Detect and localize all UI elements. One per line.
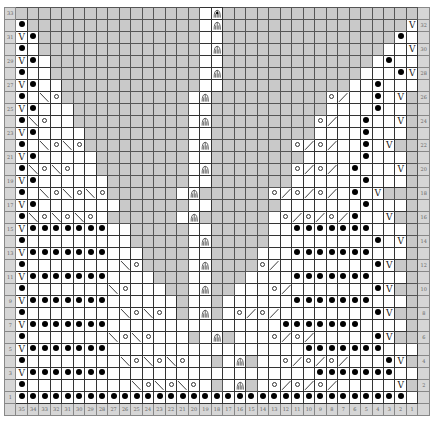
knit-cell <box>85 175 96 187</box>
purl-cell <box>361 247 372 259</box>
no-stitch-cell <box>395 331 406 343</box>
no-stitch-cell <box>338 55 349 67</box>
knit-cell <box>406 79 417 91</box>
left-decrease-cell <box>39 91 50 103</box>
no-stitch-cell <box>395 283 406 295</box>
purl-icon <box>19 393 25 399</box>
knit-cell <box>383 115 394 127</box>
purl-icon <box>202 393 208 399</box>
no-stitch-cell <box>326 79 337 91</box>
no-stitch-cell <box>50 31 61 43</box>
purl-icon <box>317 393 323 399</box>
purl-icon <box>260 393 266 399</box>
no-stitch-cell <box>39 43 50 55</box>
right-decrease-cell <box>303 331 314 343</box>
no-stitch-cell <box>326 67 337 79</box>
purl-icon <box>375 93 381 99</box>
slip-icon: V <box>409 20 416 30</box>
row-label-left: 17 <box>5 199 16 211</box>
no-stitch-cell <box>131 163 142 175</box>
no-stitch-cell <box>269 31 280 43</box>
purl-icon <box>340 345 346 351</box>
no-stitch-cell <box>223 163 234 175</box>
purl-icon <box>363 225 369 231</box>
knit-cell <box>269 271 280 283</box>
row-label-left <box>5 235 16 247</box>
knit-cell <box>73 283 84 295</box>
no-stitch-cell <box>131 235 142 247</box>
knit-cell <box>177 367 188 379</box>
knit-cell <box>200 379 211 391</box>
no-stitch-cell <box>131 115 142 127</box>
knit-cell <box>383 271 394 283</box>
knit-cell <box>372 67 383 79</box>
no-stitch-cell <box>292 19 303 31</box>
purl-cell <box>165 391 176 403</box>
slip-icon: V <box>397 92 404 102</box>
knit-cell <box>326 199 337 211</box>
purl-icon <box>53 273 59 279</box>
purl-cell <box>85 247 96 259</box>
knit-cell <box>62 127 73 139</box>
row-label-left <box>5 91 16 103</box>
no-stitch-cell <box>257 199 268 211</box>
knit-cell <box>315 199 326 211</box>
knit-cell <box>246 271 257 283</box>
row-label-right: 18 <box>418 187 430 199</box>
no-stitch-cell <box>211 151 222 163</box>
purl-icon <box>19 381 25 387</box>
knit-cell <box>372 55 383 67</box>
knit-cell <box>223 295 234 307</box>
knit-cell <box>188 271 199 283</box>
slip-icon: V <box>409 68 416 78</box>
knit-cell <box>338 151 349 163</box>
yo-cell <box>177 355 188 367</box>
purl-cell <box>16 259 27 271</box>
no-stitch-cell <box>96 8 107 20</box>
purl-icon <box>386 57 392 63</box>
purl-icon <box>30 321 36 327</box>
purl-icon <box>168 393 174 399</box>
purl-icon <box>375 345 381 351</box>
knit-cell <box>372 163 383 175</box>
purl-icon <box>363 129 369 135</box>
yo-cell <box>39 163 50 175</box>
row-label-left <box>5 379 16 391</box>
right-decrease-cell <box>269 307 280 319</box>
no-stitch-cell <box>177 55 188 67</box>
knit-cell <box>119 247 130 259</box>
no-stitch-cell <box>372 43 383 55</box>
purl-cell <box>27 79 38 91</box>
knit-cell <box>108 355 119 367</box>
yo-cell <box>142 331 153 343</box>
no-stitch-cell <box>154 139 165 151</box>
purl-icon <box>386 357 392 363</box>
knit-cell <box>406 367 417 379</box>
no-stitch-cell <box>177 163 188 175</box>
no-stitch-cell <box>62 43 73 55</box>
knit-cell <box>62 259 73 271</box>
knit-cell <box>223 355 234 367</box>
knit-cell <box>50 379 61 391</box>
no-stitch-cell <box>154 55 165 67</box>
no-stitch-cell <box>269 127 280 139</box>
no-stitch-cell <box>361 55 372 67</box>
no-stitch-cell <box>62 91 73 103</box>
row-label-right: 24 <box>418 115 430 127</box>
knit-cell <box>326 259 337 271</box>
no-stitch-cell <box>211 127 222 139</box>
no-stitch-cell <box>131 223 142 235</box>
knit-cell <box>257 283 268 295</box>
column-label: 18 <box>211 403 222 415</box>
double-decrease-cell <box>200 283 211 295</box>
no-stitch-cell <box>349 19 360 31</box>
knit-cell <box>383 67 394 79</box>
knit-cell <box>383 379 394 391</box>
knit-cell <box>177 187 188 199</box>
knit-cell <box>372 115 383 127</box>
slip-icon: V <box>18 320 25 330</box>
row-label-left <box>5 211 16 223</box>
knit-cell <box>257 247 268 259</box>
no-stitch-cell <box>211 175 222 187</box>
no-stitch-cell <box>246 211 257 223</box>
